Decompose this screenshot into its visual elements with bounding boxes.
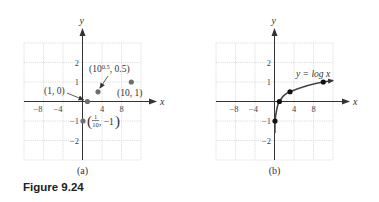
point-10-1 xyxy=(129,79,134,84)
x-axis-label-a: x xyxy=(159,96,165,107)
svg-text:2: 2 xyxy=(75,58,79,68)
svg-text:−2: −2 xyxy=(70,136,79,146)
point-sqrt10-half xyxy=(95,89,100,94)
svg-text:4: 4 xyxy=(292,104,297,114)
svg-text:4: 4 xyxy=(100,104,105,114)
label-sqrt10-tail: , 0.5) xyxy=(110,64,130,75)
label-sqrt10: (100.5, 0.5) xyxy=(89,63,130,76)
point-tenth-neg1 xyxy=(80,118,85,123)
label-tenth-paren-open: ( xyxy=(87,113,92,130)
label-tenth-num: 1 xyxy=(94,113,97,120)
label-10-1: (10, 1) xyxy=(117,88,142,99)
panel-b: x y −8 −4 4 8 2 1 −1 −2 y = log x (b) xyxy=(216,15,358,177)
svg-text:−1: −1 xyxy=(262,116,271,126)
svg-text:−8: −8 xyxy=(229,104,238,114)
y-axis-label-b: y xyxy=(271,15,277,26)
label-tenth-tail: , −1 xyxy=(99,117,114,127)
svg-text:8: 8 xyxy=(119,104,123,114)
x-axis-label-b: x xyxy=(352,96,358,107)
svg-text:1: 1 xyxy=(75,77,79,87)
svg-text:1: 1 xyxy=(267,77,271,87)
svg-text:8: 8 xyxy=(311,104,315,114)
label-tenth-paren-close: ) xyxy=(115,113,120,130)
y-axis-label-a: y xyxy=(79,15,85,26)
svg-text:−4: −4 xyxy=(53,104,63,114)
label-sqrt10-exp: 0.5 xyxy=(102,63,110,70)
label-sqrt10-base: (10 xyxy=(89,64,102,75)
label-1-0: (1, 0) xyxy=(44,86,65,97)
point-b-1-0 xyxy=(277,99,282,104)
leader-arrow-1-0 xyxy=(67,93,84,100)
figure-caption: Figure 9.24 xyxy=(23,181,84,193)
point-b-sqrt10-half xyxy=(287,89,292,94)
panel-label-b: (b) xyxy=(269,165,281,177)
curve-label: y = log x xyxy=(295,69,331,79)
point-b-tenth-neg1 xyxy=(272,118,277,123)
panel-label-a: (a) xyxy=(77,165,88,177)
svg-text:−2: −2 xyxy=(262,136,271,146)
svg-text:2: 2 xyxy=(267,58,271,68)
panel-a: x y −8 −4 4 8 2 1 −1 −2 (1, 0) (100.5, 0… xyxy=(24,15,165,177)
svg-text:−4: −4 xyxy=(249,104,259,114)
svg-text:−8: −8 xyxy=(33,104,42,114)
label-tenth-den: 10 xyxy=(92,121,99,128)
svg-text:−1: −1 xyxy=(70,116,79,126)
point-b-10-1 xyxy=(321,79,326,84)
point-1-0 xyxy=(85,99,90,104)
figure-canvas: x y −8 −4 4 8 2 1 −1 −2 (1, 0) (100.5, 0… xyxy=(0,0,379,202)
log-curve xyxy=(275,81,333,134)
